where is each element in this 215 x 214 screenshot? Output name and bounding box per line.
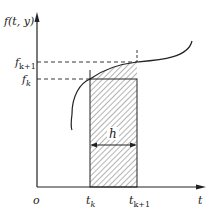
origin-label: o [33,194,40,207]
x-axis-arrow-icon [196,185,206,190]
step-label: h [109,127,117,141]
y-tick-fk: fk [21,73,31,88]
function-curve-lower [71,114,72,130]
x-axis-label: t [198,194,203,207]
y-axis-label: f(t, y) [3,15,34,28]
y-axis-arrow-icon [35,12,40,22]
y-tick-fk1: fk+1 [14,56,36,71]
x-tick-tk: tk [86,194,95,209]
euler-integration-diagram: h f(t, y) fk+1 fk o tk tk+1 t [0,0,215,214]
x-tick-tk1: tk+1 [129,194,150,209]
hatched-curve-cap [90,62,137,79]
